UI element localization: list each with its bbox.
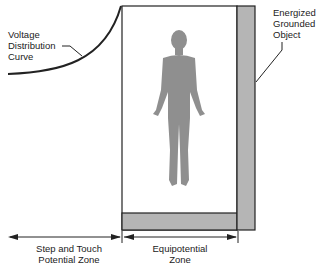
step-touch-zone-label: Step and Touch Potential Zone [20,243,118,265]
label-line: Grounded [273,18,316,29]
label-line: Voltage [8,29,56,40]
label-line: Step and Touch [20,243,118,254]
label-line: Zone [140,254,220,265]
label-line: Object [273,29,316,40]
curve-leader [62,46,82,56]
grounded-object-label: Energized Grounded Object [273,7,316,40]
energized-grounded-object [237,6,255,230]
label-line: Equipotential [140,243,220,254]
equipotential-zone-label: Equipotential Zone [140,243,220,265]
label-line: Potential Zone [20,254,118,265]
voltage-curve-label: Voltage Distribution Curve [8,29,56,62]
label-line: Energized [273,7,316,18]
label-line: Distribution [8,40,56,51]
label-line: Curve [8,51,56,62]
ground-mat-bar [122,213,237,230]
object-leader [256,42,282,82]
